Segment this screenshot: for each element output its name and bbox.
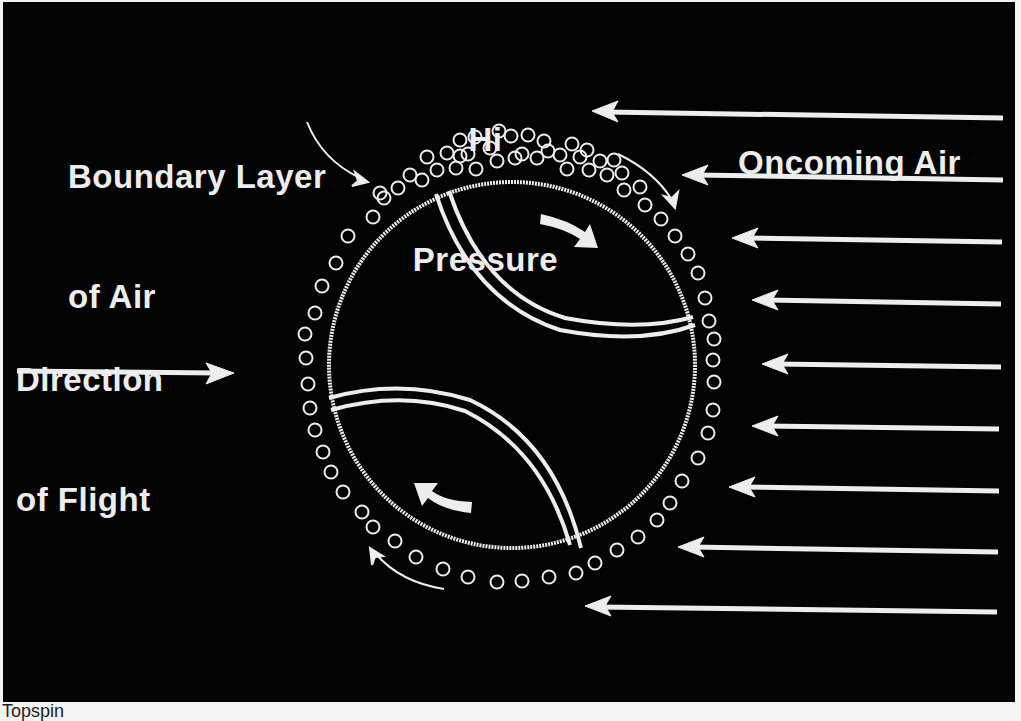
oncoming-air-label-text: Oncoming Air	[738, 143, 961, 183]
air-arrow-icon	[729, 477, 999, 497]
hi-pressure-label-line2: Pressure	[408, 240, 563, 280]
hi-pressure-label: Hi Pressure	[408, 40, 563, 320]
direction-of-flight-label: Direction of Flight	[16, 280, 164, 560]
air-arrow-icon	[585, 596, 997, 616]
direction-label-line2: of Flight	[16, 480, 164, 520]
air-arrow-icon	[678, 537, 998, 557]
air-arrow-icon	[752, 290, 1001, 310]
air-arrow-icon	[752, 416, 999, 436]
boundary-layer-label-line1: Boundary Layer	[68, 157, 326, 197]
spin-arrow-return-icon	[414, 483, 472, 513]
oncoming-air-label: Oncoming Air	[738, 63, 961, 223]
air-arrow-icon	[762, 354, 1001, 374]
hi-pressure-label-line1: Hi	[408, 120, 563, 160]
direction-label-line1: Direction	[16, 360, 164, 400]
figure-caption: Topspin	[2, 702, 64, 720]
air-arrow-icon	[732, 228, 1002, 248]
